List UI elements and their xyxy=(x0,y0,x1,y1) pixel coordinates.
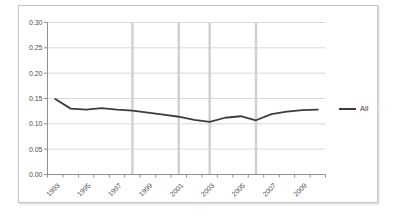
y-axis-label: 0.30 xyxy=(29,19,43,26)
legend-label: All xyxy=(360,105,368,113)
x-axis-label: 2005 xyxy=(230,182,246,198)
x-axis-label: 2007 xyxy=(261,182,277,198)
legend-line-icon xyxy=(339,108,356,110)
series-line-all xyxy=(55,99,318,122)
y-axis-label: 0.25 xyxy=(29,44,43,51)
y-axis-label: 0.05 xyxy=(29,146,43,153)
y-axis-label: 0.00 xyxy=(29,171,43,178)
y-axis-label: 0.15 xyxy=(29,95,43,102)
chart-area: 0.000.050.100.150.200.250.30199319951997… xyxy=(18,5,378,203)
x-axis-label: 1997 xyxy=(107,182,123,198)
x-axis-label: 2003 xyxy=(199,182,215,198)
x-axis-label: 2001 xyxy=(169,182,185,198)
y-axis-label: 0.10 xyxy=(29,120,43,127)
y-axis-label: 0.20 xyxy=(29,70,43,77)
x-axis-label: 1999 xyxy=(138,182,154,198)
x-axis-label: 2009 xyxy=(292,182,308,198)
chart-svg: 0.000.050.100.150.200.250.30199319951997… xyxy=(19,6,377,202)
x-axis-label: 1995 xyxy=(76,182,92,198)
legend: All xyxy=(339,103,368,115)
x-axis-label: 1993 xyxy=(45,182,61,198)
